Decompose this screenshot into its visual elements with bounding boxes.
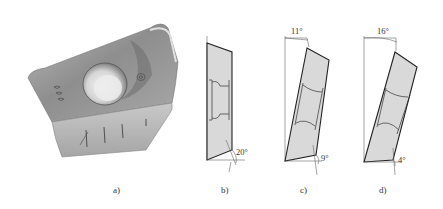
- caption-b: b): [221, 185, 229, 195]
- insert-profile-d: [364, 52, 417, 162]
- insert-geometry-figure: a) 20° b): [0, 0, 443, 209]
- insert-profile-b: [207, 43, 232, 160]
- panel-d: 16° 4° d): [364, 26, 417, 195]
- screw-hole-inner: [94, 75, 122, 101]
- angle-marker-c-top: [285, 38, 309, 47]
- panel-b: 20° b): [207, 36, 248, 195]
- caption-d: d): [379, 185, 387, 195]
- milling-insert-photo: [28, 24, 178, 157]
- panel-c: 11° 9° c): [285, 26, 329, 195]
- angle-label-d-bottom: 4°: [398, 155, 406, 165]
- angle-label-b: 20°: [236, 147, 248, 157]
- insert-profile-c: [285, 48, 329, 161]
- angle-marker-d-top: [364, 38, 397, 52]
- angle-label-c-bottom: 9°: [321, 153, 329, 163]
- caption-c: c): [300, 185, 307, 195]
- angle-label-d-top: 16°: [377, 26, 389, 36]
- angle-label-c-top: 11°: [291, 26, 303, 36]
- panel-a: a): [28, 24, 178, 195]
- caption-a: a): [113, 185, 120, 195]
